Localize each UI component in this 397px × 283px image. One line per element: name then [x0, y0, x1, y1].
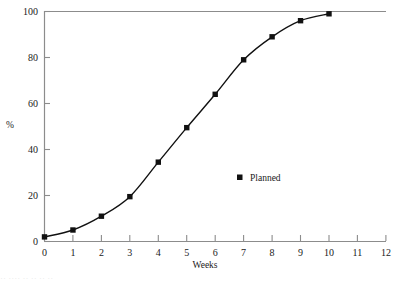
x-tick-label-7: 7: [241, 247, 246, 258]
x-tick-label-10: 10: [324, 247, 334, 258]
x-tick-label-2: 2: [99, 247, 104, 258]
data-point-marker: [156, 159, 161, 164]
page-bottom-text-artifact: ·· ···· ·· ·· ·· ··: [0, 274, 200, 283]
x-tick-label-9: 9: [298, 247, 303, 258]
x-tick-label-6: 6: [213, 247, 218, 258]
data-point-marker: [127, 194, 132, 199]
data-point-marker: [70, 227, 75, 232]
x-axis-title: Weeks: [192, 260, 217, 270]
y-tick-label-40: 40: [28, 144, 38, 155]
x-tick-label-1: 1: [70, 247, 75, 258]
data-point-marker: [213, 92, 218, 97]
x-tick-label-5: 5: [184, 247, 189, 258]
x-tick-label-4: 4: [156, 247, 161, 258]
y-axis-title: %: [6, 120, 14, 130]
series-planned: [42, 11, 332, 240]
series-markers-planned: [42, 11, 332, 240]
chart-legend: Planned: [237, 173, 281, 183]
data-point-marker: [269, 34, 274, 39]
y-tick-label-0: 0: [33, 236, 38, 247]
data-point-marker: [241, 57, 246, 62]
y-tick-label-80: 80: [28, 52, 38, 63]
x-tick-label-11: 11: [353, 247, 363, 258]
data-point-marker: [99, 214, 104, 219]
x-tick-label-12: 12: [381, 247, 391, 258]
x-tick-label-3: 3: [127, 247, 132, 258]
line-chart: 0 20 40 60 80 100 % 0 1: [0, 0, 397, 283]
x-tick-label-8: 8: [270, 247, 275, 258]
data-point-marker: [326, 11, 331, 16]
data-point-marker: [184, 125, 189, 130]
x-axis-ticks: [45, 235, 386, 241]
x-axis-tick-labels: 0 1 2 3 4 5 6 7 8 9 10 11 12: [42, 247, 391, 258]
chart-screenshot: 0 20 40 60 80 100 % 0 1: [0, 0, 397, 283]
y-tick-label-20: 20: [28, 190, 38, 201]
legend-label-planned: Planned: [250, 173, 281, 183]
y-tick-label-60: 60: [28, 98, 38, 109]
data-point-marker: [42, 234, 47, 239]
y-axis-tick-labels: 0 20 40 60 80 100: [23, 6, 38, 247]
legend-marker-planned: [237, 175, 243, 181]
x-tick-label-0: 0: [42, 247, 47, 258]
chart-axes: [44, 11, 386, 242]
y-tick-label-100: 100: [23, 6, 38, 17]
data-point-marker: [298, 18, 303, 23]
